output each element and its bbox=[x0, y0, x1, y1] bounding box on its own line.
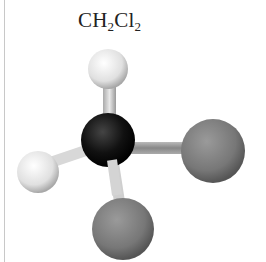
bond-front-overlay bbox=[112, 160, 117, 195]
carbon-atom-center bbox=[81, 113, 135, 167]
chlorine-atom-right bbox=[181, 119, 245, 183]
chlorine-atom-bottom bbox=[92, 198, 154, 260]
hydrogen-atom-left bbox=[17, 151, 59, 193]
ball-and-stick-model bbox=[0, 0, 266, 262]
hydrogen-atom-top bbox=[88, 49, 128, 89]
